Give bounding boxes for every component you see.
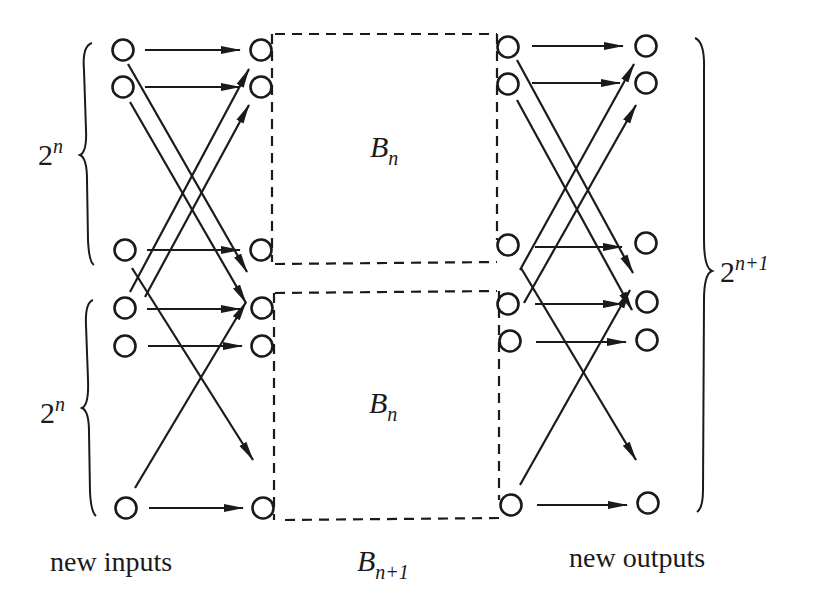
block-output-nodes: [498, 37, 522, 516]
outer-network-label: Bn+1: [357, 544, 409, 584]
output-nodes: [636, 36, 659, 514]
block-bottom-label: Bn: [369, 386, 397, 426]
left-brace-top-label: 2n: [38, 135, 63, 172]
block-top-label: Bn: [370, 130, 398, 170]
right-cross-arrows: [517, 60, 636, 485]
left-brace-bottom-label: 2n: [40, 393, 65, 430]
butterfly-diagram: [0, 0, 820, 614]
right-brace-label: 2n+1: [720, 252, 769, 289]
left-cross-arrows: [128, 64, 253, 488]
input-nodes: [113, 40, 137, 519]
right-brace: [695, 38, 712, 512]
left-brace-top: [80, 43, 94, 265]
caption-new-inputs: new inputs: [50, 546, 172, 578]
left-brace-bottom: [82, 300, 96, 516]
caption-new-outputs: new outputs: [569, 542, 705, 574]
block-input-nodes: [251, 40, 274, 519]
